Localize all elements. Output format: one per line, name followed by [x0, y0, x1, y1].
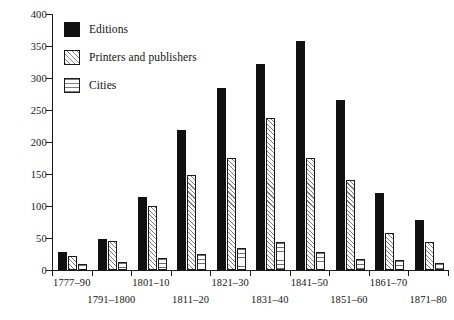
y-tick-label: 400 [31, 9, 47, 20]
bar-group [375, 14, 404, 270]
bar-cities [237, 248, 246, 270]
bar-cities [276, 242, 285, 270]
bar-group [296, 14, 325, 270]
bar-editions [296, 41, 305, 270]
bar-group [336, 14, 365, 270]
bar-printers [148, 206, 157, 270]
legend-swatch-printers [64, 50, 80, 65]
x-tick-label: 1861–70 [370, 277, 407, 288]
bar-cities [78, 264, 87, 270]
bar-editions [98, 239, 107, 270]
y-tick-label: 250 [31, 105, 47, 116]
bar-editions [336, 100, 345, 270]
x-tick-mark [92, 270, 93, 276]
bar-group [415, 14, 444, 270]
x-tick-mark [369, 270, 370, 276]
x-tick-mark [448, 270, 449, 276]
bar-group [217, 14, 246, 270]
bar-cities [197, 254, 206, 270]
bar-editions [217, 88, 226, 270]
bar-editions [138, 197, 147, 270]
bar-cities [395, 260, 404, 270]
bar-editions [58, 252, 67, 270]
legend-item: Editions [64, 18, 197, 40]
x-tick-mark [408, 270, 409, 276]
x-tick-label: 1791–1800 [87, 294, 135, 305]
bar-cities [118, 262, 127, 270]
legend-swatch-cities [64, 78, 80, 93]
bar-printers [108, 241, 117, 270]
bar-group [256, 14, 285, 270]
legend-item: Printers and publishers [64, 46, 197, 68]
x-tick-mark [171, 270, 172, 276]
x-tick-label: 1841–50 [291, 277, 328, 288]
y-tick-label: 200 [31, 137, 47, 148]
bar-cities [158, 258, 167, 270]
bar-editions [256, 64, 265, 270]
x-tick-label: 1871–80 [409, 294, 446, 305]
bar-cities [356, 259, 365, 270]
x-tick-label: 1801–10 [132, 277, 169, 288]
chart-legend: EditionsPrinters and publishersCities [64, 18, 197, 102]
legend-label: Editions [89, 23, 128, 35]
x-tick-mark [131, 270, 132, 276]
x-tick-mark [290, 270, 291, 276]
legend-label: Cities [89, 79, 116, 91]
legend-swatch-editions [64, 22, 80, 37]
bar-editions [375, 193, 384, 270]
y-tick-label: 300 [31, 73, 47, 84]
bar-printers [68, 256, 77, 270]
bar-printers [306, 158, 315, 270]
bar-editions [177, 130, 186, 270]
x-tick-label: 1851–60 [330, 294, 367, 305]
bar-cities [435, 263, 444, 270]
bar-printers [266, 118, 275, 270]
y-tick-label: 100 [31, 201, 47, 212]
x-tick-label: 1831–40 [251, 294, 288, 305]
bar-printers [187, 175, 196, 270]
bar-printers [346, 180, 355, 270]
bar-cities [316, 252, 325, 270]
x-tick-mark [210, 270, 211, 276]
bar-chart: 050100150200250300350400 1777–901791–180… [0, 0, 454, 320]
bar-printers [227, 158, 236, 270]
legend-item: Cities [64, 74, 197, 96]
x-tick-label: 1811–20 [172, 294, 209, 305]
bar-printers [425, 242, 434, 270]
y-tick-label: 0 [42, 265, 47, 276]
bar-printers [385, 233, 394, 270]
x-tick-mark [250, 270, 251, 276]
y-tick-label: 350 [31, 41, 47, 52]
bar-editions [415, 220, 424, 270]
x-tick-mark [329, 270, 330, 276]
x-tick-label: 1777–90 [53, 277, 90, 288]
legend-label: Printers and publishers [89, 51, 197, 63]
x-tick-label: 1821–30 [211, 277, 248, 288]
x-tick-mark [52, 270, 53, 276]
y-tick-label: 150 [31, 169, 47, 180]
y-tick-label: 50 [36, 233, 47, 244]
